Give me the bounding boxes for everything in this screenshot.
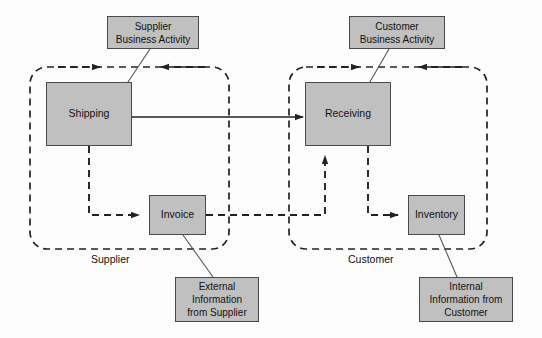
lane-label-supplier: Supplier <box>91 253 130 265</box>
node-inventory-label: Inventory <box>415 208 458 221</box>
callout-internal-information-from-customer[interactable]: Internal Information from Customer <box>419 277 513 322</box>
node-invoice-label: Invoice <box>161 208 194 221</box>
node-invoice[interactable]: Invoice <box>149 195 206 235</box>
callout-external-information-from-supplier[interactable]: External Information from Supplier <box>175 277 259 322</box>
leader-line-external-information-from-supplier <box>178 228 213 277</box>
diagram-canvas: Shipping Receiving Invoice Inventory Sup… <box>0 0 542 338</box>
node-receiving[interactable]: Receiving <box>305 82 391 146</box>
connector-shipping-to-invoice <box>89 146 139 215</box>
connector-invoice-to-receiving <box>206 156 325 215</box>
node-inventory[interactable]: Inventory <box>408 195 465 235</box>
lane-label-customer: Customer <box>348 253 394 265</box>
leader-line-internal-information-from-customer <box>436 228 457 277</box>
callout-external-information-from-supplier-label: External Information from Supplier <box>187 280 246 319</box>
callout-internal-information-from-customer-label: Internal Information from Customer <box>430 280 503 319</box>
node-receiving-label: Receiving <box>325 107 371 120</box>
callout-supplier-business-activity[interactable]: Supplier Business Activity <box>107 16 199 49</box>
lane-label-customer-text: Customer <box>348 253 394 265</box>
node-shipping-label: Shipping <box>69 107 110 120</box>
connector-receiving-to-inventory <box>368 146 398 215</box>
lane-label-supplier-text: Supplier <box>91 253 130 265</box>
callout-supplier-business-activity-label: Supplier Business Activity <box>116 20 190 46</box>
callout-customer-business-activity-label: Customer Business Activity <box>360 20 434 46</box>
node-shipping[interactable]: Shipping <box>46 82 132 146</box>
callout-customer-business-activity[interactable]: Customer Business Activity <box>349 16 445 49</box>
